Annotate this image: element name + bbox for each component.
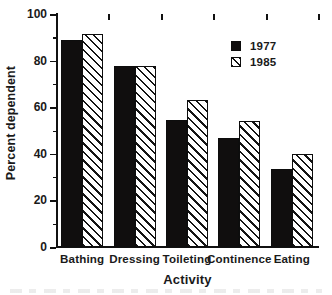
- bar: [166, 120, 187, 247]
- bar-chart: Percent dependent 020406080100 BathingDr…: [0, 0, 332, 295]
- y-tick-minor: [53, 84, 57, 85]
- bar: [114, 66, 135, 247]
- bar: [135, 66, 156, 247]
- bar: [82, 34, 103, 247]
- legend-swatch: [231, 57, 241, 67]
- x-tick-label: Dressing: [109, 252, 160, 265]
- x-tick-label: Toileting: [163, 252, 212, 265]
- y-tick-label: 60: [34, 100, 47, 114]
- legend-label: 1985: [250, 56, 276, 68]
- legend-item: 1985: [231, 56, 276, 68]
- y-tick-minor: [53, 37, 57, 38]
- y-tick-major: [50, 247, 56, 249]
- y-tick-label: 100: [27, 7, 47, 21]
- x-tick-label: Bathing: [60, 252, 104, 265]
- y-tick-major: [50, 61, 56, 63]
- bar-group: [114, 14, 156, 247]
- x-tick: [108, 14, 110, 20]
- x-tick-label: Continence: [207, 252, 272, 265]
- scan-artifact: [10, 289, 322, 293]
- bar: [292, 154, 313, 247]
- bar: [239, 121, 260, 247]
- legend-label: 1977: [250, 40, 276, 52]
- x-tick-label: Eating: [274, 252, 310, 265]
- x-tick: [161, 14, 163, 20]
- y-axis-title: Percent dependent: [2, 0, 20, 246]
- bar: [218, 138, 239, 248]
- legend-swatch: [231, 41, 241, 51]
- bar: [61, 40, 82, 247]
- legend: 19771985: [231, 40, 276, 72]
- y-tick-label: 80: [34, 54, 47, 68]
- y-tick-minor: [53, 224, 57, 225]
- legend-item: 1977: [231, 40, 276, 52]
- y-tick-major: [50, 154, 56, 156]
- bar: [271, 169, 292, 247]
- x-tick: [213, 14, 215, 20]
- y-tick-label: 0: [40, 240, 47, 254]
- y-tick-major: [50, 200, 56, 202]
- y-tick-label: 40: [34, 147, 47, 161]
- y-tick-minor: [53, 131, 57, 132]
- plot-area: 020406080100: [56, 14, 318, 247]
- x-tick: [318, 14, 320, 20]
- y-tick-major: [50, 107, 56, 109]
- x-tick: [266, 14, 268, 20]
- y-tick-label: 20: [34, 193, 47, 207]
- bar-group: [271, 14, 313, 247]
- y-tick-minor: [53, 177, 57, 178]
- bar-group: [61, 14, 103, 247]
- bar: [187, 100, 208, 247]
- x-axis-title: Activity: [56, 272, 319, 287]
- x-tick: [56, 14, 58, 20]
- bar-group: [166, 14, 208, 247]
